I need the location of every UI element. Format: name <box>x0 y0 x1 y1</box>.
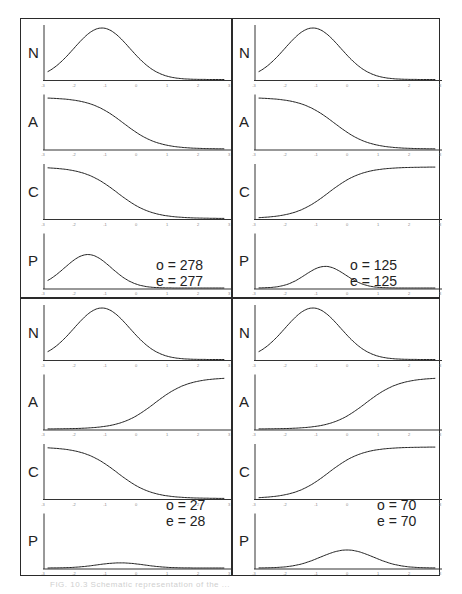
observed-count: o = 125 <box>350 257 397 273</box>
x-tick-label: 0 <box>135 502 138 507</box>
x-tick-label: -1 <box>103 432 107 437</box>
x-tick-label: 0 <box>135 83 138 88</box>
row-label-c: C <box>239 463 250 480</box>
x-tick-label: 1 <box>377 291 380 296</box>
row-label-p: P <box>28 532 38 549</box>
curve-n <box>259 308 436 360</box>
x-tick-label: 0 <box>135 571 138 576</box>
x-tick-label: 0 <box>346 363 349 368</box>
x-tick-label: 3 <box>439 152 442 157</box>
observed-count: o = 278 <box>156 257 203 273</box>
x-tick-label: -3 <box>41 432 45 437</box>
x-tick-label: -3 <box>252 152 256 157</box>
x-tick-label: 2 <box>197 291 200 296</box>
x-tick-label: 3 <box>439 83 442 88</box>
observed-count: o = 27 <box>166 497 205 513</box>
x-tick-label: 1 <box>166 291 169 296</box>
x-tick-label: -3 <box>252 571 256 576</box>
panel-annotation: o = 27 e = 28 <box>166 497 205 529</box>
panel-top-right: -3-2-10123-3-2-10123-3-2-10123-3-2-10123… <box>232 19 442 297</box>
x-tick-label: -2 <box>72 83 76 88</box>
x-tick-label: -1 <box>314 291 318 296</box>
x-tick-label: 0 <box>135 432 138 437</box>
x-tick-label: 2 <box>197 83 200 88</box>
panel-plot: -3-2-10123-3-2-10123-3-2-10123-3-2-10123 <box>21 19 231 297</box>
row-label-p: P <box>239 252 249 269</box>
x-tick-label: -3 <box>252 222 256 227</box>
curve-c <box>259 447 436 498</box>
x-tick-label: -1 <box>103 152 107 157</box>
x-tick-label: -3 <box>252 502 256 507</box>
x-tick-label: -1 <box>314 502 318 507</box>
x-tick-label: 3 <box>228 152 231 157</box>
x-tick-label: 2 <box>408 432 411 437</box>
panel-top-left: -3-2-10123-3-2-10123-3-2-10123-3-2-10123… <box>21 19 231 297</box>
row-label-c: C <box>28 463 39 480</box>
x-tick-label: 1 <box>166 363 169 368</box>
x-tick-label: -1 <box>314 432 318 437</box>
x-tick-label: 3 <box>439 363 442 368</box>
x-tick-label: 0 <box>135 291 138 296</box>
x-tick-label: -2 <box>283 502 287 507</box>
x-tick-label: 0 <box>346 152 349 157</box>
x-tick-label: -2 <box>72 502 76 507</box>
x-tick-label: -2 <box>72 152 76 157</box>
x-tick-label: -3 <box>41 571 45 576</box>
row-label-n: N <box>28 324 39 341</box>
x-tick-label: -1 <box>103 502 107 507</box>
x-tick-label: -3 <box>252 363 256 368</box>
curve-a <box>48 98 225 149</box>
x-tick-label: 2 <box>408 83 411 88</box>
figure-frame: -3-2-10123-3-2-10123-3-2-10123-3-2-10123… <box>20 18 440 576</box>
x-tick-label: -3 <box>41 152 45 157</box>
x-tick-label: -1 <box>103 571 107 576</box>
x-tick-label: -2 <box>283 152 287 157</box>
x-tick-label: 2 <box>408 363 411 368</box>
x-tick-label: 2 <box>408 222 411 227</box>
x-tick-label: -2 <box>72 363 76 368</box>
x-tick-label: 3 <box>228 291 231 296</box>
x-tick-label: 2 <box>197 363 200 368</box>
curve-p <box>259 266 436 288</box>
curve-n <box>259 28 436 80</box>
x-tick-label: -1 <box>103 222 107 227</box>
row-label-c: C <box>239 183 250 200</box>
x-tick-label: -3 <box>41 222 45 227</box>
expected-count: e = 28 <box>166 513 205 529</box>
x-tick-label: -3 <box>41 83 45 88</box>
panel-annotation: o = 125 e = 125 <box>350 257 397 289</box>
x-tick-label: 1 <box>377 83 380 88</box>
x-tick-label: 3 <box>439 502 442 507</box>
x-tick-label: 2 <box>197 152 200 157</box>
panel-bottom-left: -3-2-10123-3-2-10123-3-2-10123-3-2-10123… <box>21 299 231 577</box>
x-tick-label: 1 <box>166 222 169 227</box>
x-tick-label: 3 <box>228 571 231 576</box>
x-tick-label: 1 <box>377 363 380 368</box>
x-tick-label: -2 <box>72 571 76 576</box>
x-tick-label: -1 <box>314 83 318 88</box>
x-tick-label: -3 <box>252 432 256 437</box>
x-tick-label: 0 <box>346 83 349 88</box>
x-tick-label: 0 <box>135 152 138 157</box>
x-tick-label: 1 <box>377 432 380 437</box>
row-label-n: N <box>28 44 39 61</box>
x-tick-label: 0 <box>346 502 349 507</box>
x-tick-label: 3 <box>439 432 442 437</box>
row-label-a: A <box>239 393 249 410</box>
x-tick-label: -2 <box>283 291 287 296</box>
expected-count: e = 277 <box>156 273 203 289</box>
x-tick-label: -1 <box>103 291 107 296</box>
x-tick-label: 1 <box>377 152 380 157</box>
curve-p <box>48 563 225 568</box>
x-tick-label: 2 <box>197 222 200 227</box>
curve-n <box>48 28 225 80</box>
x-tick-label: 3 <box>228 83 231 88</box>
x-tick-label: 3 <box>228 502 231 507</box>
x-tick-label: 0 <box>135 363 138 368</box>
row-label-p: P <box>28 252 38 269</box>
x-tick-label: 1 <box>377 222 380 227</box>
row-label-p: P <box>239 532 249 549</box>
x-tick-label: 2 <box>408 152 411 157</box>
x-tick-label: -2 <box>72 291 76 296</box>
curve-c <box>259 167 436 218</box>
